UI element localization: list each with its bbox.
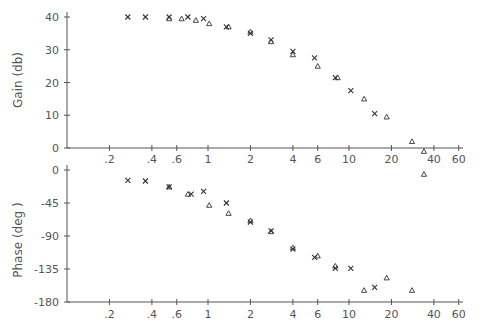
- y-tick-label: 0: [52, 164, 59, 177]
- y-tick-label: 0: [52, 142, 59, 155]
- triangle-marker: [315, 64, 320, 69]
- x-tick-label: .4: [147, 308, 158, 321]
- x-marker: [185, 15, 190, 20]
- triangle-marker: [409, 288, 414, 293]
- x-tick-label: .6: [171, 153, 182, 166]
- x-marker: [312, 55, 317, 60]
- y-tick-label: -90: [41, 230, 59, 243]
- y-tick-label: 40: [45, 11, 59, 24]
- x-marker: [143, 179, 148, 184]
- y-tick-label: 10: [45, 109, 59, 122]
- phase-y-axis-label: Phase (deg ): [11, 202, 25, 277]
- bode-plot: 010203040 .2.4.6124610204060 Gain (db) 0…: [0, 0, 482, 331]
- x-marker: [372, 285, 377, 290]
- gain-y-ticks: 010203040: [45, 11, 70, 155]
- x-marker: [224, 201, 229, 206]
- triangle-marker: [421, 149, 426, 154]
- x-tick-label: 2: [247, 308, 254, 321]
- y-tick-label: -180: [34, 296, 59, 309]
- triangle-marker: [384, 114, 389, 119]
- x-tick-label: .4: [147, 153, 158, 166]
- x-tick-label: 20: [384, 153, 398, 166]
- y-tick-label: 30: [45, 44, 59, 57]
- x-tick-label: 40: [427, 153, 441, 166]
- gain-data-points: [125, 15, 426, 177]
- x-tick-label: 40: [427, 308, 441, 321]
- triangle-marker: [226, 211, 231, 216]
- triangle-marker: [207, 21, 212, 26]
- x-marker: [348, 88, 353, 93]
- x-tick-label: 10: [342, 153, 356, 166]
- x-tick-label: 60: [452, 308, 466, 321]
- triangle-marker: [409, 139, 414, 144]
- triangle-marker: [421, 172, 426, 177]
- x-marker: [125, 178, 130, 183]
- triangle-marker: [384, 275, 389, 280]
- phase-y-ticks: 0-45-90-135-180: [34, 164, 70, 309]
- gain-panel: 010203040 .2.4.6124610204060 Gain (db): [11, 11, 466, 176]
- triangle-marker: [362, 288, 367, 293]
- x-tick-label: 10: [342, 308, 356, 321]
- x-marker: [201, 189, 206, 194]
- x-marker: [372, 111, 377, 116]
- x-tick-label: 20: [384, 308, 398, 321]
- gain-y-axis-label: Gain (db): [11, 52, 25, 108]
- x-marker: [201, 16, 206, 21]
- x-marker: [125, 15, 130, 20]
- y-tick-label: -45: [41, 197, 59, 210]
- gain-axes: [67, 12, 463, 148]
- x-tick-label: 1: [205, 153, 212, 166]
- triangle-marker: [193, 18, 198, 23]
- x-tick-label: 2: [247, 153, 254, 166]
- x-tick-label: .2: [104, 308, 115, 321]
- phase-panel: 0-45-90-135-180 .2.4.6124610204060 Phase…: [11, 164, 466, 321]
- triangle-marker: [179, 16, 184, 21]
- triangle-marker: [207, 203, 212, 208]
- x-marker: [348, 266, 353, 271]
- x-tick-label: .6: [171, 308, 182, 321]
- x-tick-label: 6: [314, 153, 321, 166]
- x-tick-label: 4: [289, 308, 296, 321]
- bode-plot-svg: 010203040 .2.4.6124610204060 Gain (db) 0…: [0, 0, 482, 331]
- phase-axes: [67, 165, 463, 302]
- triangle-marker: [362, 96, 367, 101]
- y-tick-label: 20: [45, 77, 59, 90]
- y-tick-label: -135: [34, 263, 59, 276]
- x-tick-label: 4: [289, 153, 296, 166]
- x-tick-label: 1: [205, 308, 212, 321]
- x-tick-label: .2: [104, 153, 115, 166]
- x-tick-label: 60: [452, 153, 466, 166]
- x-marker: [143, 15, 148, 20]
- phase-data-points: [125, 178, 414, 293]
- x-tick-label: 6: [314, 308, 321, 321]
